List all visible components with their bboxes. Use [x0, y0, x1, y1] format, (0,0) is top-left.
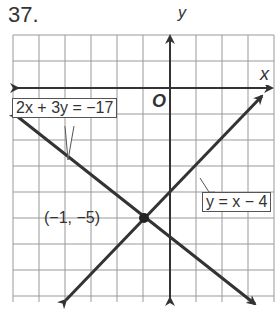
- equation-label-1: 2x + 3y = −17: [12, 98, 117, 118]
- coordinate-graph: [0, 0, 279, 316]
- axes: [18, 36, 272, 298]
- intersection-point: [139, 213, 149, 223]
- grid: [13, 35, 274, 302]
- intersection-label: (−1, −5): [44, 209, 100, 227]
- y-axis-label: y: [178, 4, 186, 22]
- equation-label-2: y = x − 4: [202, 192, 271, 212]
- origin-label: O: [152, 91, 166, 112]
- x-axis-label: x: [260, 64, 269, 85]
